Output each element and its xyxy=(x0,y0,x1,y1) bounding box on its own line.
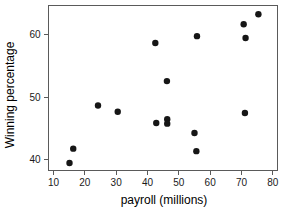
data-point xyxy=(242,110,248,116)
y-tick-label: 50 xyxy=(29,92,41,103)
x-tick-label: 70 xyxy=(236,177,248,188)
y-axis-title: Winning percentage xyxy=(3,41,17,148)
plot-canvas: 1020304050607080 405060 payroll (million… xyxy=(0,0,288,208)
data-point xyxy=(193,148,199,154)
y-tick-label: 40 xyxy=(29,154,41,165)
data-point xyxy=(164,120,170,126)
data-point xyxy=(115,109,121,115)
x-tick-label: 30 xyxy=(111,177,123,188)
x-tick-label: 60 xyxy=(205,177,217,188)
data-point xyxy=(242,35,248,41)
data-point xyxy=(153,120,159,126)
data-point xyxy=(191,130,197,136)
y-tick-label: 60 xyxy=(29,29,41,40)
data-point xyxy=(255,11,261,17)
x-tick-label: 80 xyxy=(267,177,279,188)
data-point xyxy=(152,40,158,46)
x-tick-label: 10 xyxy=(48,177,60,188)
data-point xyxy=(70,145,76,151)
x-axis-title: payroll (millions) xyxy=(121,193,208,207)
x-tick-label: 40 xyxy=(142,177,154,188)
data-point xyxy=(95,102,101,108)
data-point xyxy=(66,160,72,166)
data-point xyxy=(194,33,200,39)
x-tick-label: 50 xyxy=(173,177,185,188)
data-point xyxy=(164,78,170,84)
data-point xyxy=(240,21,246,27)
scatter-plot-figure: 1020304050607080 405060 payroll (million… xyxy=(0,0,288,208)
x-tick-label: 20 xyxy=(79,177,91,188)
